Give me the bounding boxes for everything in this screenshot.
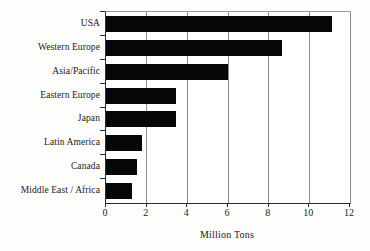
x-tick-label: 12: [334, 207, 364, 219]
bar: [106, 183, 132, 199]
category-label-asia-pacific: Asia/Pacific: [0, 66, 100, 77]
gridline: [309, 12, 310, 203]
x-tick-label: 0: [90, 207, 120, 219]
bar: [106, 88, 176, 104]
category-label-latin-america: Latin America: [0, 137, 100, 148]
category-label-canada: Canada: [0, 161, 100, 172]
bar: [106, 135, 142, 151]
x-axis-title: Million Tons: [105, 229, 349, 241]
plot-area: [105, 11, 351, 204]
bar-chart: USA Western Europe Asia/Pacific Eastern …: [0, 0, 370, 251]
bar: [106, 16, 332, 32]
bar: [106, 111, 176, 127]
category-label-eastern-europe: Eastern Europe: [0, 90, 100, 101]
bar: [106, 40, 282, 56]
gridline: [350, 12, 351, 203]
category-axis-labels: USA Western Europe Asia/Pacific Eastern …: [0, 11, 100, 202]
x-tick-label: 8: [253, 207, 283, 219]
x-tick-label: 10: [293, 207, 323, 219]
bar: [106, 64, 228, 80]
category-label-usa: USA: [0, 18, 100, 29]
x-tick-label: 6: [212, 207, 242, 219]
category-label-middle-east-africa: Middle East / Africa: [0, 185, 100, 196]
category-label-western-europe: Western Europe: [0, 42, 100, 53]
x-tick-label: 2: [131, 207, 161, 219]
bar: [106, 159, 137, 175]
category-label-japan: Japan: [0, 113, 100, 124]
x-tick-label: 4: [171, 207, 201, 219]
